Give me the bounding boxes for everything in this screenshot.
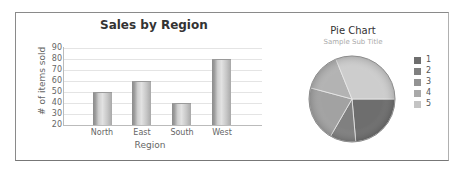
y-axis	[63, 47, 64, 126]
gridline	[64, 48, 262, 49]
legend-swatch	[414, 68, 421, 75]
pie-chart-title: Pie Chart	[318, 25, 388, 36]
x-axis-label: Region	[130, 140, 170, 150]
legend-item-5: 5	[414, 99, 444, 110]
y-tick: 90	[42, 43, 62, 52]
pie-chart-subtitle: Sample Sub Title	[310, 38, 396, 46]
legend-swatch	[414, 90, 421, 97]
bar-north	[93, 92, 112, 125]
y-tick: 70	[42, 65, 62, 74]
legend-item-1: 1	[414, 55, 444, 66]
legend-item-3: 3	[414, 77, 444, 88]
legend-item-2: 2	[414, 66, 444, 77]
legend-label: 5	[426, 99, 431, 108]
gridline	[64, 59, 262, 60]
y-tick: 20	[42, 120, 62, 129]
x-tick: South	[162, 128, 202, 137]
y-tick: 60	[42, 76, 62, 85]
bar-east	[132, 81, 151, 125]
x-tick: West	[202, 128, 242, 137]
pie-chart	[306, 53, 398, 145]
legend-swatch	[414, 101, 421, 108]
legend-label: 2	[426, 66, 431, 75]
legend-label: 3	[426, 77, 431, 86]
y-tick: 30	[42, 109, 62, 118]
y-tick: 80	[42, 54, 62, 63]
x-tick: North	[82, 128, 122, 137]
bar-west	[212, 59, 231, 125]
legend-label: 4	[426, 88, 431, 97]
gridline	[64, 81, 262, 82]
legend-swatch	[414, 79, 421, 86]
x-axis	[63, 125, 262, 126]
bar-chart-title: Sales by Region	[100, 18, 200, 32]
y-tick: 40	[42, 98, 62, 107]
legend-label: 1	[426, 55, 431, 64]
legend-item-4: 4	[414, 88, 444, 99]
x-tick: East	[122, 128, 162, 137]
gridline	[64, 70, 262, 71]
legend-swatch	[414, 57, 421, 64]
y-tick: 50	[42, 87, 62, 96]
bar-south	[172, 103, 191, 125]
